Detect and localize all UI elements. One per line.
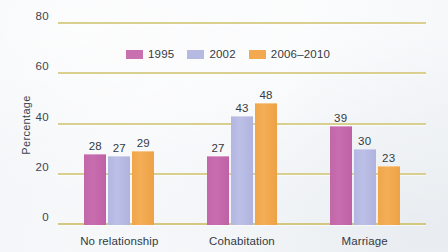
bar[interactable] [231, 116, 253, 225]
y-axis-title-text: Percentage [20, 95, 32, 154]
bar[interactable] [207, 156, 229, 225]
bar[interactable] [354, 149, 376, 225]
bar-value-label: 48 [259, 89, 272, 101]
legend-item[interactable]: 2006–2010 [249, 48, 330, 60]
legend-label: 2002 [209, 48, 235, 60]
bar-value-label: 27 [113, 142, 126, 154]
y-axis-tick-label: 80 [35, 10, 49, 22]
bar-column[interactable]: 28 [84, 24, 106, 225]
bar-chart-figure: Percentage 020406080 282729No relationsh… [0, 0, 448, 252]
legend-item[interactable]: 1995 [126, 48, 174, 60]
legend-swatch [187, 50, 204, 59]
legend-swatch [126, 50, 143, 59]
y-axis-title: Percentage [18, 24, 34, 225]
bar-value-label: 23 [382, 152, 395, 164]
legend-label: 2006–2010 [271, 48, 330, 60]
bar[interactable] [378, 166, 400, 225]
chart-legend: 199520022006–2010 [126, 48, 330, 60]
bar[interactable] [132, 151, 154, 225]
bar-value-label: 43 [235, 102, 248, 114]
bar-value-label: 39 [334, 112, 347, 124]
bar-value-label: 30 [358, 135, 371, 147]
bar[interactable] [330, 126, 352, 225]
x-axis-category-label: Marriage [342, 235, 388, 247]
y-axis-tick-label: 40 [35, 111, 49, 123]
legend-swatch [249, 50, 266, 59]
bar-value-label: 27 [211, 142, 224, 154]
bar-value-label: 29 [137, 137, 150, 149]
y-axis-tick-label: 20 [35, 161, 49, 173]
bar[interactable] [108, 156, 130, 225]
bar-column[interactable]: 39 [330, 24, 352, 225]
y-axis-tick-label: 60 [35, 60, 49, 72]
bar-column[interactable]: 30 [354, 24, 376, 225]
legend-item[interactable]: 2002 [187, 48, 235, 60]
x-axis-category-label: No relationship [80, 235, 158, 247]
bar[interactable] [84, 154, 106, 225]
y-axis-tick-label: 0 [42, 211, 49, 223]
legend-label: 1995 [148, 48, 174, 60]
bar-value-label: 28 [89, 140, 102, 152]
x-axis-category-label: Cohabitation [209, 235, 275, 247]
bar-column[interactable]: 23 [378, 24, 400, 225]
bar[interactable] [255, 103, 277, 225]
